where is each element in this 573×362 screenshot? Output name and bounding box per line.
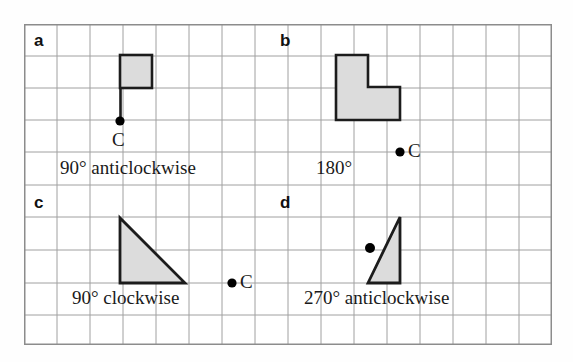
caption-a: 90° anticlockwise (60, 158, 196, 177)
caption-b: 180° (316, 158, 352, 177)
grid-container: a C 90° anticlockwise b C 180° c C 90° c… (24, 24, 552, 345)
panel-letter-a: a (34, 32, 43, 49)
centre-label-c: C (240, 272, 253, 291)
panel-letter-d: d (280, 194, 290, 211)
panel-letter-b: b (280, 32, 290, 49)
caption-c: 90° clockwise (72, 288, 179, 307)
figure-canvas: a C 90° anticlockwise b C 180° c C 90° c… (0, 0, 573, 362)
centre-label-b: C (408, 141, 421, 160)
panel-letter-c: c (34, 194, 43, 211)
labels-overlay: a C 90° anticlockwise b C 180° c C 90° c… (24, 24, 552, 345)
caption-d: 270° anticlockwise (304, 288, 449, 307)
centre-label-a: C (112, 130, 125, 149)
